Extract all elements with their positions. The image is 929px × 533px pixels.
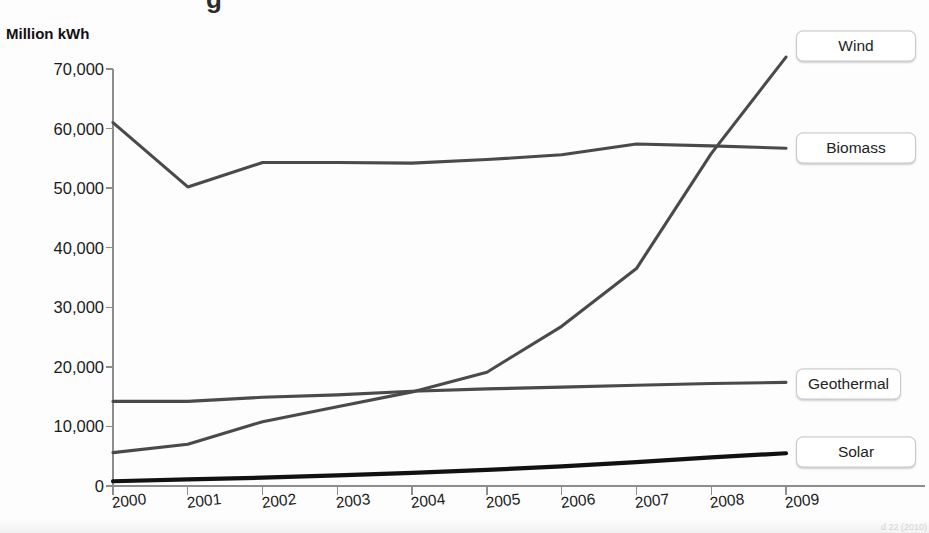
chart-series-lines (113, 57, 786, 481)
x-tick-label: 2005 (485, 490, 521, 512)
series-line-geothermal (113, 382, 786, 401)
x-tick-label: 2002 (260, 490, 296, 512)
series-callout-wind[interactable]: Wind (796, 31, 916, 62)
x-tick-label: 2006 (560, 490, 596, 512)
series-callout-solar[interactable]: Solar (796, 437, 916, 468)
series-callout-biomass[interactable]: Biomass (796, 133, 916, 164)
x-tick-label: 2001 (186, 490, 222, 512)
series-line-solar (113, 453, 786, 481)
series-line-wind (113, 57, 786, 453)
series-line-biomass (113, 123, 786, 187)
series-callout-geothermal[interactable]: Geothermal (796, 369, 901, 400)
chart-figure: g Million kWh 010,00020,00030,00040,0005… (0, 0, 929, 533)
source-note: d 22 (2010) (881, 522, 927, 532)
chart-plot-area (0, 0, 929, 533)
